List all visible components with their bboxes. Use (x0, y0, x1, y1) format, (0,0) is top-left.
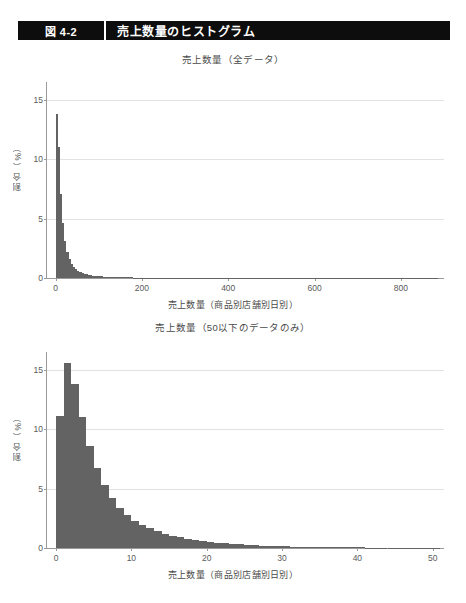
histogram-bar (327, 547, 335, 548)
chart-block-under-50: 売上数量（50以下のデータのみ） 05101501020304050 割合（%）… (0, 320, 466, 594)
y-tick-label: 15 (34, 365, 43, 375)
y-axis-label-under-50: 割合（%） (12, 412, 24, 461)
histogram-bar (142, 278, 151, 279)
histogram-bar (435, 278, 437, 279)
x-tick-label: 10 (127, 553, 136, 563)
x-tick-label: 50 (428, 553, 437, 563)
histogram-bar (357, 547, 365, 548)
x-tick-label: 200 (135, 283, 149, 293)
histogram-bar (71, 384, 79, 548)
x-tick-label: 40 (353, 553, 362, 563)
histogram-bar (259, 546, 267, 548)
histogram-bar (222, 543, 230, 548)
histogram-bar (350, 547, 358, 548)
y-tick-label: 0 (38, 543, 43, 553)
plot-area-under-50: 05101501020304050 (46, 352, 444, 549)
y-tick-label: 10 (34, 154, 43, 164)
histogram-bar (116, 508, 124, 548)
histogram-bar (214, 543, 222, 548)
histogram-bar (290, 547, 298, 548)
y-tick-mark (44, 219, 47, 220)
y-tick-mark (44, 159, 47, 160)
histogram-bar (125, 277, 134, 278)
histogram-bar (86, 446, 94, 548)
histogram-bar (305, 547, 313, 548)
x-tick-mark (401, 278, 402, 281)
histogram-bar (271, 278, 314, 279)
x-axis-label-under-50: 売上数量（商品別店舗別日別） (0, 568, 466, 581)
figure-title: 売上数量のヒストグラム (106, 21, 450, 40)
histogram-bar (275, 546, 283, 548)
histogram-bar (418, 548, 426, 549)
histogram-bar (185, 278, 207, 279)
histogram-bar (403, 548, 411, 549)
histogram-bar (312, 547, 320, 548)
x-tick-label: 400 (221, 283, 235, 293)
histogram-bar (207, 278, 229, 279)
histogram-bar (342, 547, 350, 548)
y-tick-label: 5 (38, 484, 43, 494)
histogram-bar (139, 525, 147, 548)
histogram-bar (146, 528, 154, 548)
histogram-bar (177, 537, 185, 548)
x-tick-mark (228, 278, 229, 281)
histogram-bar (169, 536, 177, 548)
histogram-bar (388, 548, 396, 549)
y-tick-label: 10 (34, 424, 43, 434)
chart-title-under-50: 売上数量（50以下のデータのみ） (0, 320, 466, 332)
gridline-y (47, 100, 444, 101)
histogram-bar (151, 278, 160, 279)
histogram-bar (154, 531, 162, 548)
histogram-bar (433, 548, 441, 549)
y-tick-mark (44, 278, 47, 279)
histogram-bar (267, 546, 275, 548)
chart-title-all-data: 売上数量（全データ） (0, 52, 466, 64)
histogram-bar (133, 278, 142, 279)
histogram-bar (162, 534, 170, 548)
histogram-bar (237, 544, 245, 548)
histogram-bar (131, 521, 139, 548)
x-tick-label: 600 (307, 283, 321, 293)
y-tick-label: 15 (34, 95, 43, 105)
gridline-y (47, 370, 444, 371)
x-tick-label: 0 (54, 553, 59, 563)
y-tick-label: 5 (38, 214, 43, 224)
gridline-y (47, 159, 444, 160)
y-axis-label-all-data: 割合（%） (12, 142, 24, 191)
y-tick-mark (44, 548, 47, 549)
x-tick-label: 800 (394, 283, 408, 293)
histogram-bar (94, 468, 102, 548)
histogram-bar (124, 515, 132, 548)
x-tick-label: 20 (202, 553, 211, 563)
histogram-bar (252, 545, 260, 548)
gridline-y (47, 429, 444, 430)
histogram-bar (184, 539, 192, 548)
chart-block-all-data: 売上数量（全データ） 0510150200400600800 割合（%） 売上数… (0, 52, 466, 314)
histogram-bar (282, 546, 290, 548)
histogram-bar (297, 547, 305, 548)
x-tick-label: 30 (277, 553, 286, 563)
histogram-bar (425, 548, 433, 549)
histogram-bar (192, 540, 200, 548)
histogram-bar (244, 545, 252, 548)
gridline-y (47, 219, 444, 220)
histogram-bar (365, 548, 373, 549)
x-tick-mark (433, 548, 434, 551)
histogram-bar (64, 363, 72, 548)
x-tick-mark (282, 548, 283, 551)
x-tick-mark (315, 278, 316, 281)
figure-number: 図 4-2 (18, 21, 106, 40)
histogram-bar (56, 416, 64, 548)
x-tick-label: 0 (53, 283, 58, 293)
histogram-bar (101, 485, 109, 548)
histogram-bar (320, 547, 328, 548)
histogram-bar (410, 548, 418, 549)
x-axis-label-all-data: 売上数量（商品別店舗別日別） (0, 298, 466, 311)
x-tick-mark (131, 548, 132, 551)
histogram-bar (229, 544, 237, 548)
figure-header-bar: 図 4-2 売上数量のヒストグラム (18, 21, 450, 40)
plot-area-all-data: 0510150200400600800 (46, 82, 444, 279)
histogram-bar (79, 417, 87, 548)
plot-wrapper-all-data: 0510150200400600800 割合（%） 売上数量（商品別店舗別日別） (0, 64, 466, 314)
histogram-bar (207, 542, 215, 548)
